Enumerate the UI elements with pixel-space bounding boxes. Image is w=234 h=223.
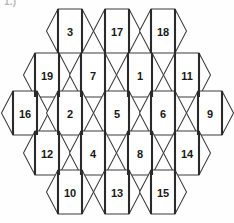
hexagon-cell-number: 5 [114,108,120,120]
hexagon-cell-number: 2 [67,108,73,120]
hexagon-cell-number: 7 [90,70,96,82]
hexagon-cell-number: 1 [137,70,143,82]
hexagon-cell-number: 3 [67,26,73,38]
hexagon-cell-number: 10 [64,187,76,199]
hexagon-cell-number: 16 [19,108,31,120]
hexagon-cell-number: 18 [157,26,169,38]
hexagon-cell-number: 15 [157,187,169,199]
hexagon-cell-number: 13 [111,187,123,199]
hexagon-cell-number: 11 [181,70,193,82]
hexagon-grid: 31718197111162569124814101315 [0,0,234,223]
hexagon-cell-number: 8 [137,148,143,160]
hexagon-puzzle-screen: 1.) 31718197111162569124814101315 [0,0,234,223]
hexagon-cell-number: 12 [41,148,53,160]
hexagon-cell-number: 6 [160,108,166,120]
hexagon-cell-number: 4 [90,148,97,160]
hexagon-cell-number: 9 [207,108,213,120]
hexagon-cell-number: 17 [111,26,123,38]
hexagon-cell-number: 19 [41,70,53,82]
hexagon-cell-number: 14 [181,148,194,160]
